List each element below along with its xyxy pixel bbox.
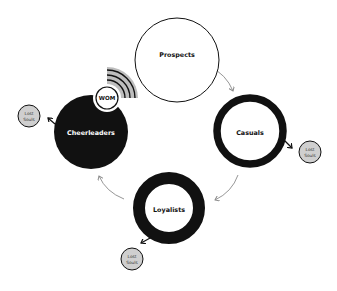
- lost-souls-casuals: Lost Souls: [299, 141, 321, 163]
- flow-arrow-casuals-to-loyalists: [215, 175, 238, 200]
- lost-souls-label-line2: Souls: [304, 153, 316, 158]
- prospects-circle: [135, 18, 219, 102]
- lost-souls-label-line1: Lost: [306, 147, 315, 152]
- lost-arrow-cheerleaders: [48, 118, 55, 124]
- casuals-label: Casuals: [236, 129, 264, 137]
- lost-arrow-casuals: [284, 140, 292, 148]
- prospects-label: Prospects: [159, 51, 195, 59]
- lost-souls-label-line1: Lost: [25, 111, 34, 116]
- stage-loyalists: Loyalists: [139, 178, 199, 238]
- lost-souls-loyalists: Lost Souls: [121, 248, 143, 270]
- stage-prospects: Prospects: [135, 18, 219, 102]
- lost-souls-label-line1: Lost: [128, 254, 137, 259]
- stage-casuals: Casuals: [217, 98, 283, 164]
- wom-label: WOM: [99, 95, 116, 101]
- lost-souls-cheerleaders: Lost Souls: [18, 105, 40, 127]
- lost-arrow-loyalists: [141, 237, 152, 243]
- lost-souls-label-line2: Souls: [23, 117, 35, 122]
- loyalists-label: Loyalists: [153, 206, 185, 214]
- lost-souls-label-line2: Souls: [126, 260, 138, 265]
- wom-badge: WOM: [93, 84, 121, 112]
- flow-arrow-loyalists-to-cheerleaders: [99, 176, 124, 199]
- customer-lifecycle-diagram: Prospects Casuals Loyalists Cheerleaders…: [0, 0, 337, 291]
- cheerleaders-label: Cheerleaders: [67, 129, 115, 137]
